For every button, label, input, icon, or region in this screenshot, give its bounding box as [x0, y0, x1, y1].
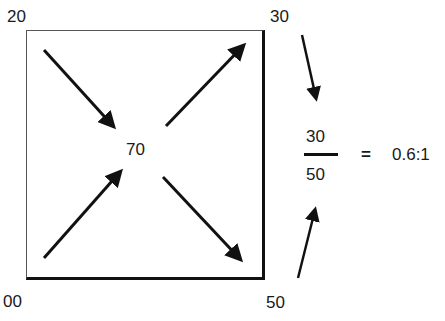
fraction-bar [304, 153, 338, 156]
corner-label-bottom-right: 50 [266, 294, 285, 311]
arrow-center-to-bottom-right [163, 177, 240, 259]
fraction-numerator: 30 [306, 128, 325, 145]
fraction-denominator: 50 [306, 166, 325, 183]
arrow-top-right-to-numerator [302, 35, 316, 98]
arrow-top-left-to-center [44, 50, 113, 126]
arrow-bottom-right-to-denominator [298, 210, 315, 278]
center-label: 70 [126, 141, 145, 158]
ratio-result: 0.6:1 [392, 146, 430, 163]
corner-label-top-left: 20 [7, 8, 26, 25]
arrows-layer [0, 0, 445, 321]
corner-label-top-right: 30 [270, 8, 289, 25]
arrow-center-to-top-right [166, 46, 243, 126]
arrow-bottom-left-to-center [44, 172, 120, 258]
equals-sign: = [361, 146, 371, 163]
corner-label-bottom-left: 00 [3, 293, 22, 310]
